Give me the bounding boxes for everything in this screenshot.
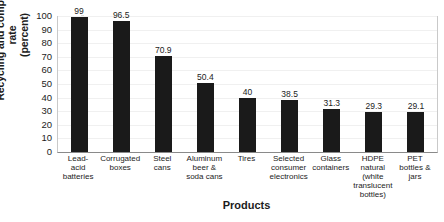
y-axis-tick-label: 10 [26,133,52,143]
bar[interactable]: 50.4 [197,83,214,152]
bar[interactable]: 29.3 [365,112,382,152]
bar-group: 9996.570.950.44038.531.329.329.1 [58,16,437,152]
bar-slot: 40 [226,16,268,152]
x-axis-tick-label: Tires [225,154,267,163]
y-axis-tick-label: 30 [26,106,52,116]
bar[interactable]: 40 [239,98,256,152]
bar-value-label: 40 [243,87,252,97]
y-axis-tick-label: 40 [26,93,52,103]
bar-slot: 29.3 [353,16,395,152]
y-axis-tick-label: 80 [26,38,52,48]
y-axis-tick-label: 0 [26,147,52,157]
bar-value-label: 29.1 [408,101,425,111]
bar-value-label: 70.9 [155,45,172,55]
bar-value-label: 31.3 [323,98,340,108]
bar-slot: 70.9 [142,16,184,152]
y-axis-tick-labels: 1009080706050403020100 [26,16,52,152]
bar[interactable]: 99 [71,17,88,152]
y-axis-title: Recycling and composting rate (percent) [0,0,25,105]
bar-slot: 50.4 [184,16,226,152]
bar-value-label: 99 [74,6,83,16]
x-axis-tick-label: Glass containers [310,154,352,172]
y-axis-tick-label: 100 [26,11,52,21]
x-axis-tick-label: Steel cans [141,154,183,172]
x-axis-tick-label: Aluminum beer & soda cans [183,154,225,181]
x-axis-tick-label: Lead- acid batteries [57,154,99,181]
x-axis-tick-labels: Lead- acid batteriesCorrugated boxesStee… [57,154,436,199]
y-axis-tick-label: 50 [26,79,52,89]
bar-slot: 29.1 [395,16,437,152]
x-axis-tick-label: Selected consumer electronics [268,154,310,181]
bar[interactable]: 38.5 [281,100,298,152]
x-axis-title: Products [57,199,436,211]
x-axis-tick-label: HDPE natural (white translucent bottles) [352,154,394,199]
y-axis-tick-label: 20 [26,120,52,130]
bar-slot: 96.5 [100,16,142,152]
y-axis-tick-label: 90 [26,25,52,35]
bar[interactable]: 96.5 [113,21,130,152]
bar-slot: 38.5 [269,16,311,152]
bar-value-label: 50.4 [197,72,214,82]
bar[interactable]: 31.3 [323,109,340,152]
plot-area: 9996.570.950.44038.531.329.329.1 [57,16,438,153]
bar-value-label: 29.3 [366,101,383,111]
bar[interactable]: 70.9 [155,56,172,152]
x-axis-tick-label: Corrugated boxes [99,154,141,172]
y-axis-tick-label: 70 [26,52,52,62]
bar-value-label: 38.5 [281,89,298,99]
bar[interactable]: 29.1 [407,112,424,152]
bar-slot: 99 [58,16,100,152]
x-axis-tick-label: PET bottles & jars [394,154,436,181]
y-axis-tick-label: 60 [26,65,52,75]
bar-slot: 31.3 [311,16,353,152]
bar-value-label: 96.5 [113,10,130,20]
bar-chart: Recycling and composting rate (percent) … [0,0,444,222]
